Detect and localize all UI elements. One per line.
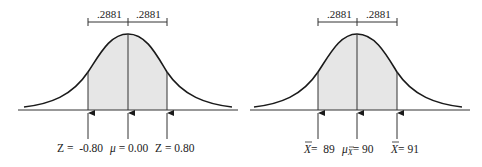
marker-label-z-neg: Z = -0.80 bbox=[57, 142, 103, 154]
left-panel-z-distribution: .2881 .2881 Z = -0.80 μ = 0.00 Z = 0.80 bbox=[18, 8, 238, 155]
normal-distribution-diagram: .2881 .2881 Z = -0.80 μ = 0.00 Z = 0.80 … bbox=[0, 0, 482, 167]
area-label-right-1: .2881 bbox=[327, 8, 352, 20]
marker-label-z-pos: Z = 0.80 bbox=[155, 142, 195, 154]
area-label-left-1: .2881 bbox=[97, 8, 122, 20]
svg-text:μX= 90: μX= 90 bbox=[341, 143, 374, 157]
marker-label-xbar-89: X= 89 bbox=[303, 142, 335, 155]
area-label-right-2: .2881 bbox=[366, 8, 391, 20]
right-panel-sample-mean-distribution: .2881 .2881 X= 89 μX= 90 X= 91 bbox=[250, 8, 470, 157]
marker-label-mu-xbar: μX= 90 bbox=[341, 143, 374, 157]
marker-label-xbar-91: X= 91 bbox=[390, 142, 419, 155]
area-label-left-2: .2881 bbox=[136, 8, 161, 20]
marker-label-mu: μ = 0.00 bbox=[109, 142, 148, 155]
svg-text:X= 91: X= 91 bbox=[390, 143, 419, 155]
svg-text:X= 89: X= 89 bbox=[303, 143, 335, 155]
